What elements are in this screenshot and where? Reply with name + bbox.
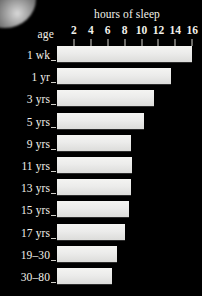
- plot-area: 1 wk1 yr3 yrs5 yrs9 yrs11 yrs13 yrs15 yr…: [0, 46, 202, 296]
- bar-row-label: 19–30: [0, 248, 50, 263]
- bar-row: 3 yrs: [0, 90, 202, 109]
- bar-row-label: 15 yrs: [0, 203, 50, 218]
- y-tick-mark: [51, 260, 56, 261]
- bar-row-label: 30–80: [0, 270, 50, 285]
- x-tick-label: 6: [105, 24, 111, 37]
- bar: [57, 224, 125, 241]
- y-tick-mark: [51, 149, 56, 150]
- y-tick-mark: [51, 193, 56, 194]
- y-tick-mark: [51, 215, 56, 216]
- x-tick-label: 12: [153, 24, 165, 37]
- bar-row: 1 wk: [0, 46, 202, 65]
- x-tick-label: 8: [122, 24, 128, 37]
- bar-row: 5 yrs: [0, 113, 202, 132]
- bar: [57, 113, 144, 130]
- bar-row-label: 13 yrs: [0, 181, 50, 196]
- bar: [57, 179, 131, 196]
- x-tick-mark: [158, 39, 159, 46]
- x-tick-mark: [124, 39, 125, 46]
- bar-row-label: 3 yrs: [0, 92, 50, 107]
- bar: [57, 90, 154, 107]
- x-tick-label: 10: [136, 24, 148, 37]
- bar-row-label: 11 yrs: [0, 159, 50, 174]
- x-tick-label: 16: [186, 24, 198, 37]
- x-tick-mark: [73, 39, 74, 46]
- bar-row: 13 yrs: [0, 179, 202, 198]
- bar-row: 15 yrs: [0, 201, 202, 220]
- bar-row: 11 yrs: [0, 157, 202, 176]
- bar-row-label: 17 yrs: [0, 226, 50, 241]
- bar: [57, 135, 131, 152]
- y-tick-mark: [51, 171, 56, 172]
- x-tick-mark: [192, 39, 193, 46]
- x-tick-mark: [175, 39, 176, 46]
- y-tick-mark: [51, 282, 56, 283]
- bar-row-label: 5 yrs: [0, 115, 50, 130]
- bar: [57, 201, 129, 218]
- x-tick-label: 2: [71, 24, 77, 37]
- y-tick-mark: [51, 238, 56, 239]
- bar-row-label: 1 wk: [0, 48, 50, 63]
- bar-row-label: 9 yrs: [0, 137, 50, 152]
- bar-row: 19–30: [0, 246, 202, 265]
- x-tick-mark: [141, 39, 142, 46]
- bar: [57, 157, 132, 174]
- x-tick-mark: [107, 39, 108, 46]
- x-tick-label: 14: [170, 24, 182, 37]
- x-tick-label: 4: [88, 24, 94, 37]
- bar: [57, 268, 112, 285]
- y-tick-mark: [51, 60, 56, 61]
- y-tick-mark: [51, 104, 56, 105]
- bar: [57, 46, 192, 63]
- sleep-hours-bar-chart: hours of sleep 246810121416 age 1 wk1 yr…: [0, 0, 202, 296]
- x-tick-mark: [90, 39, 91, 46]
- bar: [57, 246, 117, 263]
- bar: [57, 68, 171, 85]
- bar-row: 30–80: [0, 268, 202, 287]
- y-tick-mark: [51, 127, 56, 128]
- bar-row-label: 1 yr: [0, 70, 50, 85]
- bar-row: 9 yrs: [0, 135, 202, 154]
- y-tick-mark: [51, 82, 56, 83]
- y-axis-label: age: [16, 28, 54, 41]
- bar-row: 17 yrs: [0, 224, 202, 243]
- chart-title: hours of sleep: [57, 8, 197, 20]
- bar-row: 1 yr: [0, 68, 202, 87]
